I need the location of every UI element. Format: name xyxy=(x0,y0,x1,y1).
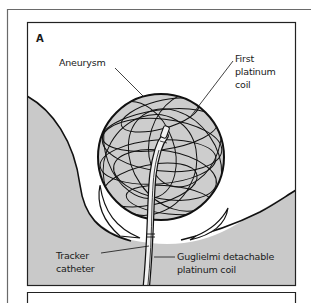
label-aneurysm: Aneurysm xyxy=(59,57,106,68)
label-gdc-1: Guglielmi detachable xyxy=(177,251,274,262)
label-gdc-2: platinum coil xyxy=(177,264,236,275)
panel-b-edge xyxy=(27,292,296,303)
label-tracker-2: catheter xyxy=(56,263,95,274)
label-first-coil-3: coil xyxy=(235,79,251,90)
label-first-coil-2: platinum xyxy=(235,66,276,77)
panel-letter: A xyxy=(36,33,44,44)
label-tracker-1: Tracker xyxy=(55,250,89,261)
label-first-coil-1: First xyxy=(235,53,254,64)
figure-canvas: A Aneurysm First platinum coil Tracker c… xyxy=(0,0,311,303)
panel-a: A Aneurysm First platinum coil Tracker c… xyxy=(27,22,296,290)
aneurysm-sac xyxy=(98,94,224,220)
